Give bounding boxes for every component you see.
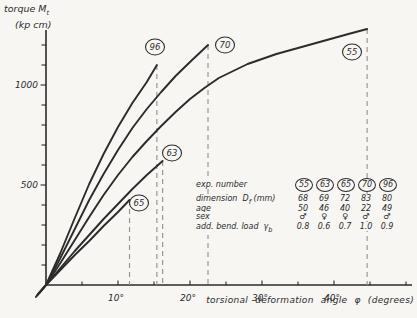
y-tick-label: 1000 [15, 80, 38, 90]
y-axis-title-text: torque Mt [4, 3, 49, 14]
curve-55 [40, 29, 368, 293]
x-tick-label: 20° [180, 293, 196, 303]
curves [36, 29, 367, 297]
peak-label-70: 70 [220, 40, 231, 50]
y-tick-label: 500 [21, 180, 38, 190]
peak-label-96: 96 [150, 42, 161, 52]
figure: 10°20°30°40°5001000 5570966365 torque Mt… [0, 0, 417, 318]
peak-label-63: 63 [167, 148, 178, 158]
x-tick-label: 10° [108, 293, 124, 303]
peak-label-55: 55 [347, 47, 358, 57]
chart-svg: 10°20°30°40°5001000 5570966365 [0, 0, 417, 318]
curve-96 [37, 65, 157, 296]
axes [41, 30, 413, 285]
x-axis-title: torsional deformation angle φ (degrees) [206, 295, 414, 305]
y-axis-unit: (kp cm) [15, 19, 51, 31]
tick-labels: 10°20°30°40°5001000 [15, 80, 340, 303]
peak-label-65: 65 [134, 198, 145, 208]
y-axis-title: torque Mt(kp cm) [4, 3, 51, 31]
